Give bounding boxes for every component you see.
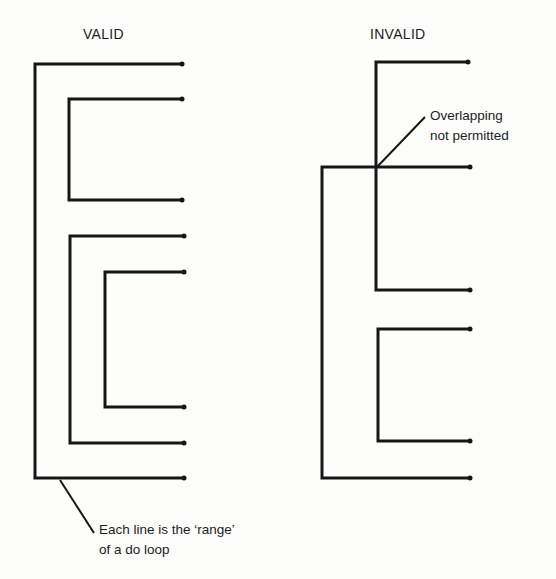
range-annotation-line-1: Each line is the ‘range’ xyxy=(99,520,235,540)
valid-heading: VALID xyxy=(83,26,124,42)
valid-panel xyxy=(35,62,187,534)
valid-inner-loop-2a-bracket xyxy=(105,270,187,410)
do-loop-diagram: VALID INVALID Overlapping not permitted … xyxy=(0,0,556,579)
diagram-canvas xyxy=(0,0,556,579)
overlap-annotation-line-1: Overlapping xyxy=(430,106,509,126)
invalid-loop-c-bracket xyxy=(378,327,473,444)
valid-inner-loop-1-bracket xyxy=(69,97,185,203)
invalid-loop-a-bracket xyxy=(376,60,473,293)
overlap-leader-line xyxy=(377,117,425,167)
range-annotation-line-2: of a do loop xyxy=(99,540,235,560)
invalid-loop-b-bracket xyxy=(322,165,473,481)
range-annotation: Each line is the ‘range’ of a do loop xyxy=(99,520,235,560)
range-leader-line xyxy=(60,480,94,533)
invalid-heading: INVALID xyxy=(370,26,426,42)
valid-inner-loop-2-bracket xyxy=(70,234,187,446)
overlap-annotation: Overlapping not permitted xyxy=(430,106,509,146)
overlap-annotation-line-2: not permitted xyxy=(430,126,509,146)
